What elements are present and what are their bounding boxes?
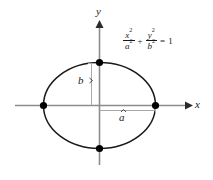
- x-denominator-exponent: 2: [130, 38, 133, 44]
- semi-minor-axis-label: b: [78, 75, 84, 86]
- x-term-denominator: a2: [123, 41, 135, 51]
- ellipse-figure: y x b a x2 a2 + y2 b2 = 1: [0, 0, 213, 180]
- plus-operator: +: [138, 36, 143, 46]
- semi-minor-indicator: [88, 64, 95, 106]
- y-numerator-exponent: 2: [152, 27, 155, 33]
- ellipse-equation: x2 a2 + y2 b2 = 1: [122, 30, 173, 52]
- y-term-denominator: b2: [146, 41, 158, 51]
- x-axis-label: x: [195, 99, 200, 110]
- vertex-point-top: [96, 59, 103, 66]
- equals-operator: =: [160, 36, 165, 46]
- x-axis-arrowhead: [185, 102, 193, 110]
- x-denominator-variable: a: [125, 41, 130, 51]
- ellipse-diagram-canvas: [0, 0, 213, 180]
- y-denominator-exponent: 2: [152, 38, 155, 44]
- equation-right-hand-side: 1: [168, 36, 173, 46]
- semi-major-axis-label: a: [119, 112, 125, 123]
- y-axis: [96, 20, 104, 165]
- y-term-fraction: y2 b2: [146, 30, 158, 52]
- semi-major-indicator: [100, 107, 156, 114]
- y-axis-label: y: [96, 6, 101, 17]
- vertex-point-right: [152, 102, 159, 109]
- y-axis-arrowhead: [96, 20, 104, 28]
- x-term-fraction: x2 a2: [123, 30, 135, 52]
- vertex-point-left: [40, 102, 47, 109]
- x-numerator-exponent: 2: [129, 27, 132, 33]
- vertex-point-bottom: [96, 145, 103, 152]
